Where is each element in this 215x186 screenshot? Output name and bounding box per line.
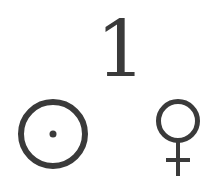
sun-icon bbox=[21, 102, 85, 166]
symbols-canvas bbox=[0, 0, 215, 186]
venus-icon bbox=[159, 102, 198, 177]
